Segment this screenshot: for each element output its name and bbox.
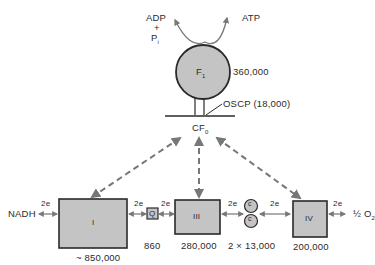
complex-iv-mw: 200,000 (293, 241, 329, 252)
electron-label: 2e (228, 199, 237, 208)
adp-atp-arrow (175, 18, 227, 44)
dashed-arrow-cf0-complex-iv (217, 138, 300, 198)
atp-label: ATP (242, 12, 260, 23)
complex-iii-mw: 280,000 (181, 240, 217, 251)
nadh-label: NADH (8, 208, 36, 219)
electron-label: 2e (134, 199, 143, 208)
cytochrome-c-mw: 2 × 13,000 (228, 240, 275, 251)
dashed-arrow-cf0-complex-i (92, 138, 180, 197)
f1-label: F1 (196, 66, 206, 79)
electron-label: 2e (161, 199, 170, 208)
electron-label: 2e (333, 199, 342, 208)
f1-mw: 360,000 (233, 66, 269, 77)
complex-iv-label: IV (305, 214, 313, 223)
oxygen-label: ½ O2 (353, 208, 375, 221)
cf0-label: CF0 (192, 122, 209, 135)
electron-label: 2e (270, 199, 279, 208)
electron-label: 2e (41, 199, 50, 208)
q-label: Q (149, 209, 155, 218)
complex-i-label: I (92, 218, 94, 227)
pi-label: Pi (151, 32, 159, 45)
cytochrome-c-label: c (248, 215, 252, 222)
cytochrome-c-label: c (248, 200, 252, 207)
q-mw: 860 (144, 240, 160, 251)
oscp-label: OSCP (18,000) (223, 98, 290, 109)
diagram-canvas (0, 0, 375, 265)
complex-i-mw: ~ 850,000 (76, 252, 120, 263)
complex-iii-label: III (193, 212, 200, 221)
